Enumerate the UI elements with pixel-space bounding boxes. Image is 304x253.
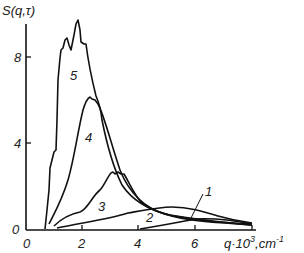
curve-label-5: 5	[70, 68, 78, 83]
curve-label-4: 4	[85, 130, 92, 145]
x-axis-title: q·103,cm-1	[224, 234, 284, 251]
curve-1-leader	[190, 194, 203, 220]
y-tick-0: 0	[12, 222, 20, 237]
x-tick-6: 6	[191, 236, 199, 251]
y-axis-title: S(q,τ)	[2, 3, 35, 18]
curve-5	[45, 20, 252, 229]
x-tick-0: 0	[23, 236, 31, 251]
curve-4	[49, 97, 252, 224]
curve-label-2: 2	[145, 210, 154, 225]
ticks	[26, 57, 252, 230]
x-tick-2: 2	[77, 236, 86, 251]
curve-label-1: 1	[205, 184, 212, 199]
chart: 8 4 0 0 2 4 6 S(q,τ) q·103,cm-1 1 2 3 4 …	[0, 0, 304, 253]
y-tick-4: 4	[14, 136, 21, 151]
y-tick-8: 8	[14, 50, 22, 65]
x-tick-4: 4	[134, 236, 141, 251]
curve-label-3: 3	[98, 199, 106, 214]
